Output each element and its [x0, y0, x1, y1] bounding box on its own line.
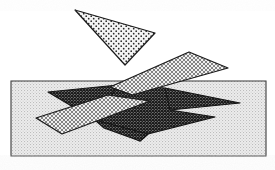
dotted-triangle — [75, 10, 155, 65]
figure-root — [0, 0, 275, 170]
polygon-figure — [0, 0, 275, 170]
